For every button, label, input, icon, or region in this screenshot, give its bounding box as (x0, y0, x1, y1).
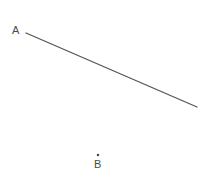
point-label-b: B (94, 159, 101, 170)
geometry-figure: A B (0, 0, 216, 177)
segment-through-a (26, 33, 197, 107)
figure-drawing-surface (0, 0, 216, 177)
point-b-dot (97, 154, 99, 156)
point-label-a: A (12, 25, 19, 36)
